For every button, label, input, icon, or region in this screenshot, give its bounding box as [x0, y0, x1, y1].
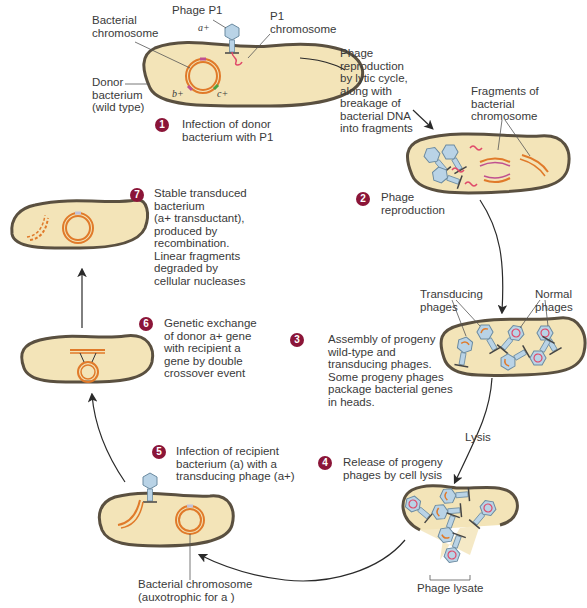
step-4-text: Release of progeny phages by cell lysis [343, 456, 443, 481]
step-7-badge: 7 [130, 188, 144, 202]
step-3-text: Assembly of progeny wild-type and transd… [328, 333, 453, 408]
gene-b-plus: b+ [172, 88, 184, 101]
donor-bacterium-label: Donor bacterium (wild type) [92, 76, 144, 114]
p1-chromosome-label: P1 chromosome [270, 10, 336, 35]
step-2-badge: 2 [356, 192, 370, 206]
reproduction-cell [407, 120, 569, 193]
step-1-badge: 1 [155, 118, 169, 132]
step-6-text: Genetic exchange of donor a+ gene with r… [164, 317, 257, 380]
lysis-label: Lysis [465, 431, 491, 444]
gene-c-plus: c+ [217, 88, 228, 101]
bacterial-chromosome-label: Bacterial chromosome [92, 14, 158, 39]
recipient-cell [99, 473, 233, 580]
step-4-badge: 4 [318, 456, 332, 470]
step-7-text: Stable transduced bacterium (a+ transduc… [154, 187, 247, 287]
step-3-badge: 3 [290, 333, 304, 347]
transductant-cell [12, 200, 148, 248]
recipient-chromosome-label: Bacterial chromosome (auxotrophic for a … [138, 578, 252, 603]
phage-lysate-label: Phage lysate [417, 582, 484, 595]
lytic-cycle-note: Phage reproduction by lytic cycle, along… [340, 47, 413, 135]
step-2-text: Phage reproduction [381, 191, 445, 216]
normal-phages-label: Normal phages [535, 288, 573, 313]
step-5-text: Infection of recipient bacterium (a) wit… [176, 445, 295, 483]
phage-p1-label: Phage P1 [172, 4, 223, 17]
gene-a-plus: a+ [198, 22, 210, 35]
recombination-cell [22, 336, 153, 382]
step-6-badge: 6 [139, 317, 153, 331]
step-5-badge: 5 [152, 445, 166, 459]
step-1-text: Infection of donor bacterium with P1 [182, 118, 273, 143]
fragments-label: Fragments of bacterial chromosome [471, 85, 539, 123]
lysis-cell [402, 486, 517, 580]
transducing-phages-label: Transducing phages [420, 288, 483, 313]
